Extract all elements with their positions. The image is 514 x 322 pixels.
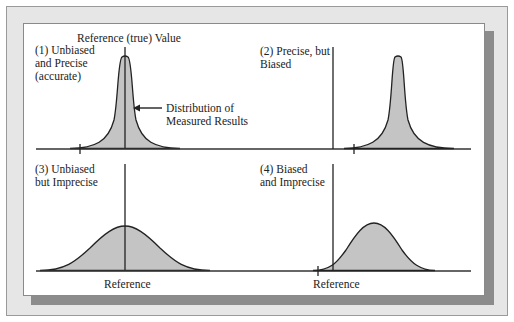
- panel-4-label-line-1: (4) Biased: [260, 163, 308, 176]
- panel-3-label-line-1: (3) Unbiased: [35, 163, 95, 176]
- reference-true-value-label: Reference (true) Value: [77, 32, 181, 45]
- panel-2-label-line-1: (2) Precise, but: [260, 45, 330, 58]
- annotation-line-1: Distribution of: [166, 102, 234, 115]
- panel-1-label-line-2: and Precise: [35, 57, 88, 70]
- annotation-line-2: Measured Results: [166, 115, 248, 128]
- panel-2-curve: [344, 56, 454, 149]
- panel-3-reference-label: Reference: [104, 278, 151, 291]
- panel-2-label-line-2: Biased: [260, 58, 291, 71]
- panel-4-reference-label: Reference: [313, 278, 360, 291]
- panel-1-label-line-1: (1) Unbiased: [35, 44, 95, 57]
- panel-1-label-line-3: (accurate): [35, 70, 81, 83]
- panel-4-curve: [313, 223, 435, 271]
- panel-3-label-line-2: but Imprecise: [35, 176, 98, 189]
- panel-4-label-line-2: and Imprecise: [260, 176, 325, 189]
